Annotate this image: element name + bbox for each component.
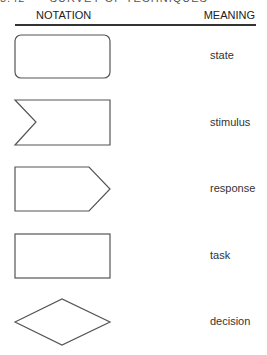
state-rounded-rectangle-icon <box>13 32 113 82</box>
meaning-state: state <box>210 49 234 61</box>
response-pointed-shape-icon <box>13 164 113 214</box>
header-rule <box>15 24 256 26</box>
meaning-task: task <box>210 249 230 261</box>
page-header: 8.42 SURVEY OF TECHNIQUES <box>0 0 208 4</box>
meaning-stimulus: stimulus <box>210 116 250 128</box>
meaning-response: response <box>210 182 255 194</box>
decision-diamond-icon <box>13 297 113 347</box>
meaning-column-header: MEANING <box>204 9 255 21</box>
meaning-decision: decision <box>210 315 250 327</box>
task-rectangle-icon <box>13 232 113 282</box>
notation-column-header: NOTATION <box>36 9 91 21</box>
stimulus-notched-rectangle-icon <box>13 97 113 147</box>
